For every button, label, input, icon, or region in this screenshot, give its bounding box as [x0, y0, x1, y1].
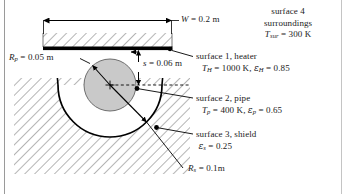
shield-arc-right-tail: [162, 78, 163, 85]
surface4-label-block: surface 4 surroundings Tsur = 300 K: [264, 6, 312, 42]
width-symbol: W: [181, 14, 189, 24]
surface4-line2: surroundings: [264, 18, 312, 30]
pipe-radius-label: Rp = 0.05 m: [9, 52, 54, 65]
width-dimension-label: W = 0.2 m: [181, 14, 220, 26]
surface4-temperature: Tsur = 300 K: [264, 29, 312, 42]
surface1-properties: TH = 1000 K, εH = 0.85: [196, 63, 290, 76]
width-dimension: [44, 21, 180, 35]
shield-radius-label: Rs = 0.1m: [188, 163, 225, 176]
surface2-properties: Tp = 400 K, εp = 0.65: [196, 105, 282, 118]
heater-anchor-dot: [168, 47, 172, 51]
heater-backing-hatch: [43, 33, 172, 47]
surface2-label-block: surface 2, pipe Tp = 400 K, εp = 0.65: [196, 93, 282, 117]
surface3-emissivity: εs = 0.25: [196, 141, 256, 154]
pipe-radius-leader: [80, 59, 90, 64]
surface4-line1: surface 4: [264, 6, 312, 18]
surface3-line1: surface 3, shield: [196, 129, 256, 141]
gap-dimension-label: s = 0.06 m: [143, 58, 182, 70]
surface1-leader: [172, 51, 193, 57]
surface2-line1: surface 2, pipe: [196, 93, 282, 105]
width-value: = 0.2 m: [189, 14, 220, 24]
figure-canvas: W = 0.2 m surface 4 surroundings Tsur = …: [0, 0, 344, 194]
surface1-line1: surface 1, heater: [196, 51, 290, 63]
surface1-label-block: surface 1, heater TH = 1000 K, εH = 0.85: [196, 51, 290, 75]
shield-arc-left-tail: [57, 78, 58, 85]
surface3-label-block: surface 3, shield εs = 0.25: [196, 129, 256, 153]
heater-plate: [43, 47, 173, 51]
